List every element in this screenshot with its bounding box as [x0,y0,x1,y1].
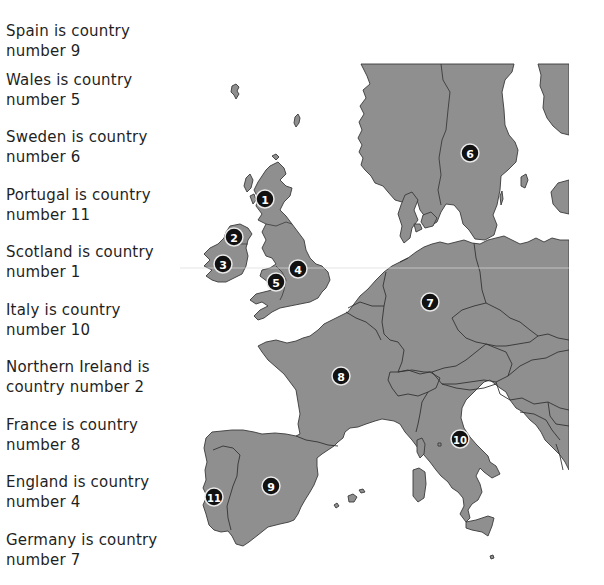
malta-island [490,555,494,559]
svg-text:11: 11 [207,493,221,504]
svg-text:8: 8 [337,371,345,384]
clue-line: Northern Ireland is [6,357,186,377]
clue-line: Portugal is country [6,185,186,205]
mallorca-island [348,494,357,502]
hebrides-islands [244,174,253,192]
marker-3: 3 [214,255,232,273]
clue-wales: Wales is country number 5 [6,70,186,110]
clue-line: country number 2 [6,377,186,397]
clue-northern-ireland: Northern Ireland is country number 2 [6,357,186,397]
clue-france: France is country number 8 [6,415,186,455]
elba-island [438,443,441,446]
clue-portugal: Portugal is country number 11 [6,185,186,225]
clue-line: number 1 [6,262,186,282]
marker-10: 10 [451,430,469,448]
clue-line: Spain is country [6,21,186,41]
svg-text:7: 7 [426,297,434,310]
oland-island [500,191,503,205]
gotland-island [521,174,528,188]
svg-text:9: 9 [267,481,275,494]
clue-scotland: Scotland is country number 1 [6,242,186,282]
clue-line: number 4 [6,492,186,512]
sardinia-island [413,468,426,502]
clue-line: number 9 [6,41,186,61]
svg-text:6: 6 [466,148,474,161]
svg-text:10: 10 [453,435,467,446]
hebrides-islands-south [250,194,256,204]
finland-landmass [538,64,569,135]
clue-line: Sweden is country [6,127,186,147]
marker-6: 6 [461,144,479,162]
clue-germany: Germany is country number 7 [6,530,186,570]
clue-line: number 8 [6,435,186,455]
clue-line: England is country [6,472,186,492]
marker-11: 11 [205,488,223,506]
shetland-islands [294,114,300,127]
marker-5: 5 [267,273,285,291]
baltic-coast [551,180,569,214]
clue-line: number 7 [6,550,186,570]
svg-text:4: 4 [294,264,302,277]
marker-7: 7 [421,293,439,311]
clue-line: number 6 [6,147,186,167]
marker-4: 4 [289,260,307,278]
clue-line: number 10 [6,320,186,340]
sicily-island [466,516,494,536]
europe-map: 1 2 3 4 5 6 7 [180,50,604,585]
clue-line: Wales is country [6,70,186,90]
clue-sweden: Sweden is country number 6 [6,127,186,167]
great-britain-landmass [250,162,330,320]
clue-line: Scotland is country [6,242,186,262]
clue-line: Italy is country [6,300,186,320]
marker-8: 8 [332,367,350,385]
norway-sweden-landmass [358,64,518,240]
svg-text:5: 5 [272,277,280,290]
menorca-island [359,489,365,493]
svg-text:1: 1 [261,194,269,207]
clue-line: Germany is country [6,530,186,550]
clue-line: France is country [6,415,186,435]
clue-italy: Italy is country number 10 [6,300,186,340]
marker-1: 1 [256,190,274,208]
faroe-islands [231,84,239,99]
marker-2: 2 [225,228,243,246]
denmark-funen [414,224,422,232]
svg-text:2: 2 [230,232,238,245]
ibiza-island [334,503,339,508]
clue-line: number 11 [6,205,186,225]
clue-line: number 5 [6,90,186,110]
continental-landmass [203,236,569,546]
clue-england: England is country number 4 [6,472,186,512]
orkney-islands [272,154,279,160]
marker-9: 9 [262,477,280,495]
svg-text:3: 3 [219,259,227,272]
clue-spain: Spain is country number 9 [6,21,186,61]
